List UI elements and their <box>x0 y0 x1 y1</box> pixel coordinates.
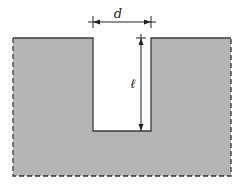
depth-label: ℓ <box>130 76 136 91</box>
arrowhead-icon <box>139 38 144 45</box>
arrowhead-icon <box>139 124 144 131</box>
arrowhead-icon <box>144 20 151 25</box>
width-label: d <box>114 6 122 21</box>
material-body <box>13 38 231 176</box>
slot-diagram: d ℓ <box>0 0 245 188</box>
arrowhead-icon <box>93 20 100 25</box>
width-dimension: d <box>88 6 156 28</box>
depth-dimension: ℓ <box>130 34 146 131</box>
